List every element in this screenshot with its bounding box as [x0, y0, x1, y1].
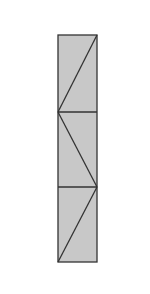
- zigzag-rectangle-diagram: [0, 0, 150, 294]
